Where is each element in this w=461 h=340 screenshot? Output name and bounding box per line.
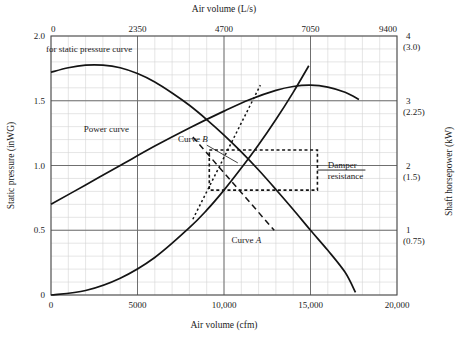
x-tick-label-top: 7050	[302, 24, 321, 34]
chart-canvas: 0500010,00015,00020,00002350470070509400…	[0, 0, 461, 340]
right-axis-title: Shaft horsepower (kW)	[444, 127, 455, 216]
y-tick-label: 2.0	[34, 31, 46, 41]
top-axis-title: Air volume (L/s)	[192, 4, 256, 15]
y-tick-label-right-hp: 1	[406, 225, 411, 235]
x-tick-label: 5000	[129, 300, 148, 310]
y-tick-label: 0.5	[34, 225, 46, 235]
y-tick-label: 1.5	[34, 96, 46, 106]
bottom-axis-title: Air volume (cfm)	[190, 320, 257, 331]
power-curve-label: Power curve	[84, 124, 129, 134]
curve-b-label: Curve B	[178, 134, 208, 144]
curve-a-label: Curve A	[232, 235, 262, 245]
x-tick-label: 0	[49, 300, 54, 310]
y-tick-label-right-hp: 3	[406, 96, 411, 106]
y-tick-label-right-kw: (1.5)	[403, 172, 420, 182]
y-tick-label-right-kw: (3.0)	[403, 42, 420, 52]
x-tick-label: 20,000	[385, 300, 410, 310]
x-tick-label: 10,000	[212, 300, 237, 310]
y-tick-label-right-kw: (0.75)	[403, 236, 425, 246]
x-tick-label-top: 0	[51, 24, 56, 34]
x-tick-label: 15,000	[298, 300, 323, 310]
fan-performance-chart: 0500010,00015,00020,00002350470070509400…	[0, 0, 461, 340]
x-tick-label-top: 9400	[379, 24, 398, 34]
left-axis-title: Static pressure (inWG)	[6, 122, 17, 210]
x-tick-label-top: 4700	[215, 24, 234, 34]
y-tick-label: 0	[41, 290, 46, 300]
y-tick-label-right-hp: 2	[406, 161, 411, 171]
x-tick-label-top: 2350	[129, 24, 148, 34]
static-pressure-label: for static pressure curve	[46, 44, 132, 54]
y-tick-label: 1.0	[34, 161, 46, 171]
y-tick-label-right-hp: 4	[406, 31, 411, 41]
y-tick-label-right-kw: (2.25)	[403, 107, 425, 117]
